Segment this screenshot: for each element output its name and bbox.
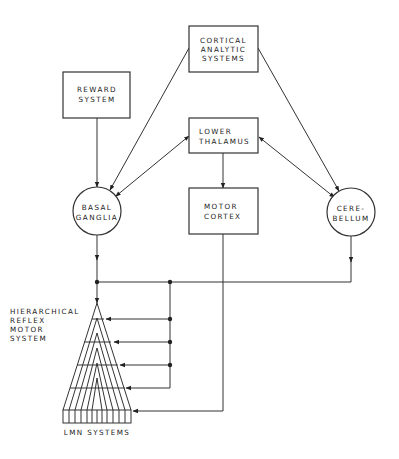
junction-dot (168, 340, 172, 344)
junction-dot (168, 280, 172, 284)
motor-line-2: CORTEX (204, 212, 241, 221)
node-cortical: CORTICAL ANALYTIC SYSTEMS (189, 26, 258, 72)
node-motor-cortex: MOTOR CORTEX (189, 188, 258, 234)
label-lmn-systems: LMN SYSTEMS (64, 428, 130, 437)
hier-line-4: SYSTEM (10, 334, 47, 343)
basal-line-2: GANGLIA (76, 213, 118, 222)
reward-line-2: SYSTEM (78, 95, 115, 104)
edge-cerebellum-bus (97, 260, 351, 282)
edge-cortical-cerebellum (258, 48, 339, 191)
edge-motor-lmn (133, 234, 223, 411)
node-reward: REWARD SYSTEM (63, 72, 130, 118)
cortical-line-1: CORTICAL (200, 36, 247, 45)
reward-line-1: REWARD (77, 85, 117, 94)
edge-basal-thalamus (116, 136, 189, 196)
junction-dot (168, 317, 172, 321)
edge-distribution (126, 282, 170, 388)
cortical-line-2: ANALYTIC (201, 45, 246, 54)
edge-cerebellum-thalamus (259, 137, 334, 197)
basal-line-1: BASAL (82, 203, 112, 212)
node-basal-ganglia: BASAL GANGLIA (73, 187, 121, 235)
thalamus-line-1: LOWER (199, 127, 232, 136)
node-cerebellum: CERE- BELLUM (327, 188, 375, 236)
cerebellum-line-2: BELLUM (333, 214, 370, 223)
hier-line-3: MOTOR (10, 325, 44, 334)
diagram-canvas: CORTICAL ANALYTIC SYSTEMS REWARD SYSTEM … (0, 0, 399, 459)
label-hierarchical: HIERARCHICAL REFLEX MOTOR SYSTEM (10, 307, 80, 343)
hierarchical-fan (63, 303, 131, 423)
hier-line-1: HIERARCHICAL (10, 307, 80, 316)
thalamus-line-2: THALAMUS (198, 137, 250, 146)
junction-dot (168, 363, 172, 367)
node-thalamus: LOWER THALAMUS (189, 118, 258, 153)
motor-line-1: MOTOR (204, 202, 238, 211)
cortical-line-3: SYSTEMS (202, 54, 245, 63)
hier-line-2: REFLEX (10, 316, 46, 325)
junction-dot (95, 280, 99, 284)
cerebellum-line-1: CERE- (337, 204, 366, 213)
